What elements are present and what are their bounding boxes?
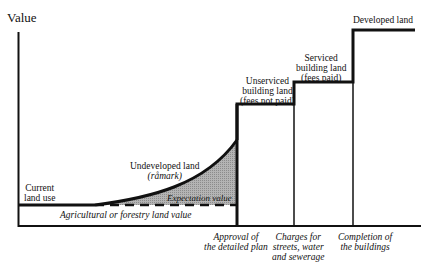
- undeveloped-land-label: Undeveloped land (råmark): [130, 161, 199, 181]
- approval-event-label: Approval of the detailed plan: [204, 232, 268, 252]
- label-line: the buildings: [338, 242, 392, 252]
- developed-land-label: Developed land: [353, 15, 413, 25]
- label-line: Unserviced: [240, 76, 295, 86]
- unserviced-building-land-label: Unserviced building land (fees not paid): [240, 76, 295, 106]
- current-land-use-label: Current land use: [24, 183, 55, 203]
- label-line: and sewerage: [272, 252, 325, 262]
- label-line: land use: [24, 193, 55, 203]
- label-line: building land: [296, 63, 346, 73]
- label-line: (råmark): [130, 171, 199, 181]
- land-value-diagram: [0, 0, 432, 267]
- label-line: Approval of: [204, 232, 268, 242]
- label-line: Charges for: [272, 232, 325, 242]
- label-line: Current: [24, 183, 55, 193]
- agricultural-value-label: Agricultural or forestry land value: [60, 210, 192, 220]
- label-line: streets, water: [272, 242, 325, 252]
- label-line: Serviced: [296, 53, 346, 63]
- charges-event-label: Charges for streets, water and sewerage: [272, 232, 325, 262]
- expectation-value-label: Expectation value: [167, 193, 232, 203]
- completion-event-label: Completion of the buildings: [338, 232, 392, 252]
- label-line: (fees paid): [296, 73, 346, 83]
- label-line: the detailed plan: [204, 242, 268, 252]
- label-line: building land: [240, 86, 295, 96]
- label-line: Completion of: [338, 232, 392, 242]
- label-line: (fees not paid): [240, 96, 295, 106]
- serviced-building-land-label: Serviced building land (fees paid): [296, 53, 346, 83]
- label-line: Undeveloped land: [130, 161, 199, 171]
